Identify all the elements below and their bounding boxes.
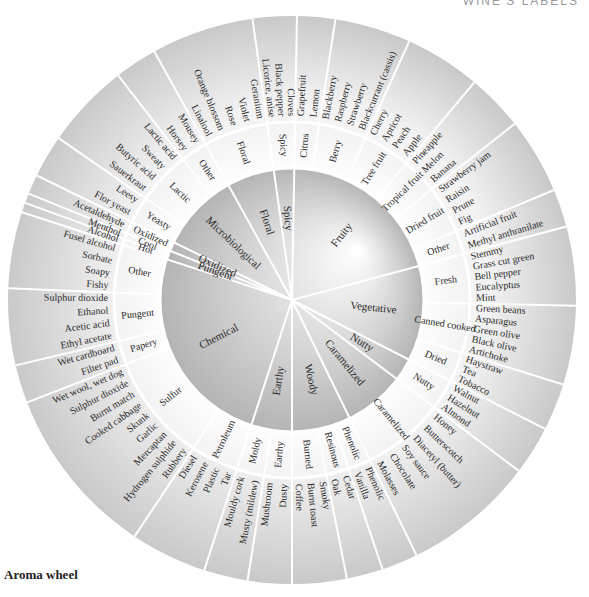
aroma-term: Coffee — [294, 484, 306, 512]
aroma-term: Grapefruit — [295, 74, 308, 116]
aroma-term: Fishy — [86, 278, 109, 291]
aroma-term: Mint — [476, 292, 496, 303]
figure-caption: Aroma wheel — [4, 567, 78, 583]
aroma-term: Ethanol — [77, 305, 109, 318]
category-spicy: Spicy — [282, 205, 296, 231]
aroma-term: Sulphur dioxide — [44, 292, 109, 303]
subcategory-earthy: Earthy — [272, 441, 285, 468]
subcategory-citrus: Citrus — [298, 133, 311, 158]
aroma-term: Dusty — [277, 484, 289, 508]
aroma-wheel: SpicySpicyLicorice, aniseBlack pepperClo… — [0, 0, 589, 597]
subcategory-spicy: Spicy — [278, 134, 290, 157]
